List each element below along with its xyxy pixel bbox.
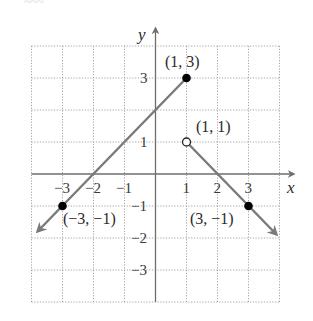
closed-point-1-3 <box>182 74 191 83</box>
y-tick-minus-3: −3 <box>131 262 147 278</box>
x-tick-minus-1: −1 <box>116 180 132 196</box>
piecewise-function-graph: ~~~ x y −3 −2 −1 1 2 3 3 1 −1 −2 − <box>0 0 313 321</box>
x-tick-2: 2 <box>214 180 222 196</box>
x-tick-3: 3 <box>245 180 253 196</box>
y-axis-label: y <box>136 25 146 44</box>
closed-point-minus3-minus1 <box>58 202 67 211</box>
x-tick-1: 1 <box>183 180 191 196</box>
x-tick-minus-3: −3 <box>54 180 70 196</box>
point-label-3-minus1: (3, −1) <box>190 210 234 228</box>
x-tick-minus-2: −2 <box>85 180 101 196</box>
cropped-caption-text: ~~~ <box>24 0 44 9</box>
closed-point-3-minus1 <box>244 202 253 211</box>
y-tick-3: 3 <box>140 70 148 86</box>
point-label-1-1: (1, 1) <box>196 118 231 136</box>
y-tick-1: 1 <box>140 134 148 150</box>
point-label-minus3-minus1: (−3, −1) <box>63 210 116 228</box>
y-tick-minus-1: −1 <box>131 198 147 214</box>
open-point-1-1 <box>183 138 191 146</box>
point-label-1-3: (1, 3) <box>165 53 200 71</box>
x-axis-label: x <box>286 178 295 197</box>
y-tick-minus-2: −2 <box>131 230 147 246</box>
